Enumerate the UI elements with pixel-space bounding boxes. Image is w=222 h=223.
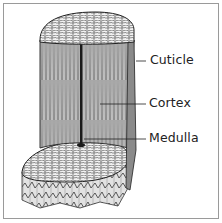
lower-cross-section xyxy=(22,140,128,182)
label-cortex: Cortex xyxy=(149,97,191,110)
label-cuticle: Cuticle xyxy=(150,54,194,67)
hair-shaft-illustration xyxy=(0,0,222,223)
upper-cross-section xyxy=(40,12,134,44)
label-medulla: Medulla xyxy=(149,132,199,145)
